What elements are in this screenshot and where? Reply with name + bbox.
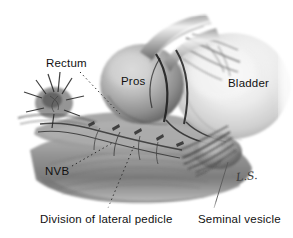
label-bladder: Bladder [228,78,269,90]
label-seminal-vesicle: Seminal vesicle [198,214,281,226]
label-rectum: Rectum [46,58,87,70]
artist-signature: L.S. [235,169,258,184]
label-division-of-lateral-pedicle: Division of lateral pedicle [40,214,173,226]
label-prostate: Pros [121,76,145,88]
label-nvb: NVB [45,166,69,178]
illustration-artwork [0,0,293,238]
anatomical-illustration: Rectum Pros Bladder NVB Division of late… [0,0,293,238]
